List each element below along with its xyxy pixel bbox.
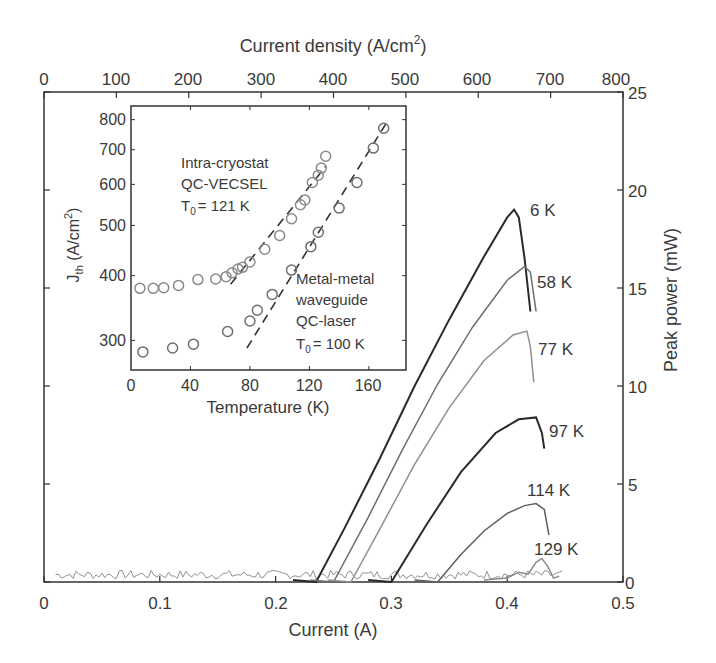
inset-x-tick-label: 40 — [181, 377, 199, 394]
svg-text:Metal-metal: Metal-metal — [296, 270, 374, 287]
inset-plot: 300 400 500 600 700 800 0 40 80 120 160 … — [62, 106, 406, 417]
curve-label-6k: 6 K — [530, 201, 556, 220]
inset-y-tick-label: 400 — [99, 267, 126, 284]
noise-baseline — [56, 570, 563, 579]
curve-129k — [484, 559, 559, 581]
x-axis-title: Current (A) — [288, 620, 377, 640]
y-tick-label: 25 — [628, 84, 647, 103]
x2-tick-label: 500 — [391, 70, 419, 89]
svg-text:Intra-cryostat: Intra-cryostat — [181, 154, 269, 171]
x2-tick-label: 100 — [102, 70, 130, 89]
x-tick-label: 0.1 — [148, 594, 172, 613]
x-tick-label: 0 — [39, 594, 48, 613]
curve-label-129k: 129 K — [534, 540, 579, 559]
curve-labels: 6 K 58 K 77 K 97 K 114 K 129 K — [527, 201, 585, 559]
y-tick-label: 5 — [628, 476, 637, 495]
inset-x-axis-title: Temperature (K) — [207, 398, 330, 417]
x2-axis-tick-labels: 0 100 200 300 400 500 600 700 800 — [39, 70, 630, 89]
inset-x-tick-labels: 0 40 80 120 160 — [127, 377, 382, 394]
svg-text:waveguide: waveguide — [295, 291, 368, 308]
peak-power-chart: 0 0.1 0.2 0.3 0.4 0.5 Current (A) 0 100 … — [0, 0, 716, 663]
inset-y-tick-labels: 300 400 500 600 700 800 — [99, 111, 126, 349]
curve-97k — [368, 417, 544, 582]
inset-frame — [131, 106, 406, 370]
x-tick-label: 0.2 — [264, 594, 288, 613]
x2-axis-title: Current density (A/cm2) — [240, 33, 427, 56]
x2-tick-label: 600 — [463, 70, 491, 89]
inset-x-tick-label: 0 — [127, 377, 136, 394]
x-tick-label: 0.3 — [379, 594, 403, 613]
y-tick-label: 10 — [628, 378, 647, 397]
curve-label-77k: 77 K — [538, 340, 574, 359]
x2-tick-label: 400 — [319, 70, 347, 89]
curve-114k — [415, 504, 549, 582]
x2-tick-label: 700 — [536, 70, 564, 89]
inset-x-tick-label: 160 — [355, 377, 382, 394]
curve-label-58k: 58 K — [537, 273, 573, 292]
x2-tick-label: 800 — [602, 70, 630, 89]
y-axis-tick-labels: 0 5 10 15 20 25 — [625, 84, 647, 593]
y-tick-label: 20 — [628, 182, 647, 201]
x2-tick-label: 200 — [174, 70, 202, 89]
x2-tick-label: 0 — [39, 70, 48, 89]
curve-label-114k: 114 K — [527, 481, 571, 500]
svg-text:QC-VECSEL: QC-VECSEL — [181, 175, 268, 192]
inset-x-tick-label: 120 — [296, 377, 323, 394]
x2-tick-label: 300 — [247, 70, 275, 89]
x-tick-label: 0.5 — [611, 594, 635, 613]
inset-y-tick-label: 800 — [99, 111, 126, 128]
inset-y-tick-label: 700 — [99, 141, 126, 158]
x-axis-tick-labels: 0 0.1 0.2 0.3 0.4 0.5 — [39, 594, 635, 613]
inset-y-tick-label: 600 — [99, 176, 126, 193]
y-tick-label: 15 — [628, 280, 647, 299]
curve-label-97k: 97 K — [549, 422, 585, 441]
svg-text:QC-laser: QC-laser — [296, 312, 356, 329]
y-axis-title: Peak power (mW) — [661, 228, 681, 372]
y-tick-label: 0 — [625, 574, 634, 593]
inset-y-tick-label: 300 — [99, 332, 126, 349]
x-tick-label: 0.4 — [495, 594, 519, 613]
inset-y-axis-title: Jth (A/cm2) — [62, 208, 85, 283]
inset-x-tick-label: 80 — [241, 377, 259, 394]
inset-y-tick-label: 500 — [99, 217, 126, 234]
